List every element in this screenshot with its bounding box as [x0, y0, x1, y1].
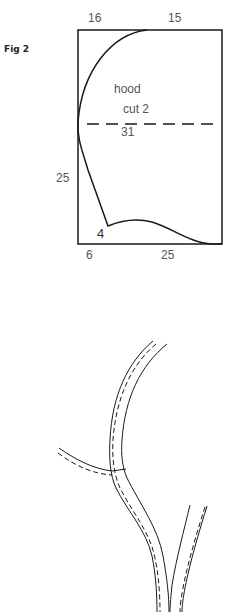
dim-top-left: 16 [88, 12, 101, 24]
strap-seam-line [113, 344, 160, 612]
fork-left-edge [170, 505, 190, 612]
cut-instruction: cut 2 [123, 103, 149, 115]
pattern-frame [78, 30, 222, 244]
hood-outline-curve [78, 30, 222, 244]
pattern-name: hood [114, 83, 141, 95]
dim-bottom-right: 25 [161, 249, 174, 261]
strap-left-edge [110, 341, 157, 612]
dim-left-side: 25 [56, 172, 69, 184]
dim-corner: 4 [97, 227, 104, 240]
dim-bottom-left: 6 [86, 249, 93, 261]
hood-pattern-piece [78, 30, 222, 244]
strap-right-edge [122, 344, 169, 612]
seam-sketch [58, 341, 207, 612]
side-piece-seam [58, 453, 112, 475]
dim-fold-line: 31 [121, 126, 134, 138]
dim-top-right: 15 [168, 12, 181, 24]
